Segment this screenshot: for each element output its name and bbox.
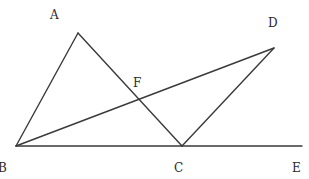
label-point-b: B bbox=[0, 161, 7, 175]
label-point-f: F bbox=[133, 76, 141, 90]
label-point-d: D bbox=[268, 16, 278, 30]
label-point-a: A bbox=[49, 8, 59, 22]
label-point-e: E bbox=[292, 161, 301, 175]
segment-cd bbox=[182, 48, 274, 146]
segment-bd bbox=[16, 48, 274, 146]
geometry-diagram: A B C D E F bbox=[0, 0, 309, 179]
segment-ab bbox=[16, 33, 78, 146]
label-point-c: C bbox=[174, 161, 183, 175]
